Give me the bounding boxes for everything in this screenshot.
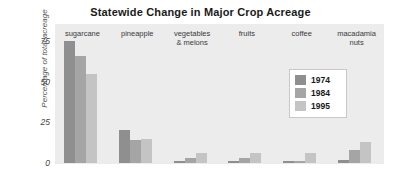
bar [86,74,97,163]
bar [283,161,294,163]
bar [174,161,185,163]
bar [338,160,349,163]
x-axis-category-label: macadamia nuts [327,30,387,47]
legend: 197419841995 [289,69,347,118]
legend-label: 1984 [311,87,330,99]
y-axis-tick-label: 75 [30,36,50,46]
page-title: Statewide Change in Major Crop Acreage [0,6,401,18]
bar [64,41,75,163]
x-axis-category-label: vegetables & melons [162,30,222,47]
bar [185,158,196,163]
bar [119,130,130,163]
bar [239,158,250,163]
y-axis-tick-label: 0 [30,158,50,168]
bar [130,140,141,163]
bar [294,161,305,163]
bar [360,142,371,163]
x-axis-category-label: fruits [217,30,277,39]
x-axis-category-label: pineapple [107,30,167,39]
legend-swatch-icon [295,75,306,85]
bar [305,153,316,163]
bar [196,153,207,163]
bar [75,56,86,163]
chart-figure: Statewide Change in Major Crop Acreage P… [0,0,401,179]
legend-label: 1974 [311,74,330,86]
x-axis-category-label: sugarcane [52,30,112,39]
bar [250,153,261,163]
y-axis-tick-label: 50 [30,77,50,87]
legend-swatch-icon [295,101,306,111]
legend-label: 1995 [311,100,330,112]
legend-swatch-icon [295,88,306,98]
x-axis-category-label: coffee [272,30,332,39]
bar [228,161,239,163]
y-axis-title: Percentage of total acreage [40,0,49,119]
bar [349,150,360,163]
y-axis-tick-label: 25 [30,117,50,127]
bar [141,139,152,163]
